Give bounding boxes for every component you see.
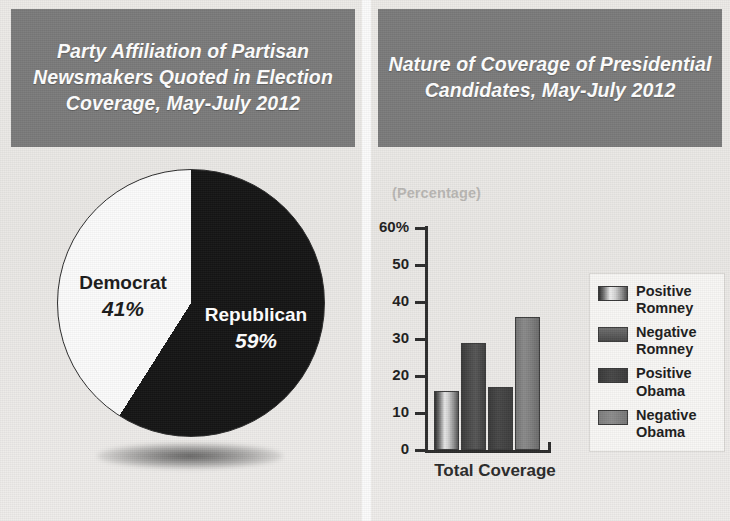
bar-positive-obama	[488, 387, 513, 450]
x-axis-label: Total Coverage	[400, 461, 590, 481]
legend-swatch-icon	[598, 368, 628, 383]
pie-slice-label-democrat: Democrat 41%	[63, 271, 183, 322]
y-tick-mark: 0	[415, 449, 426, 452]
x-axis-end-cap	[548, 442, 551, 453]
y-tick-label: 10	[392, 403, 409, 420]
pie-slice-name-republican: Republican	[186, 303, 326, 326]
bar-chart-legend: PositiveRomneyNegativeRomneyPositiveObam…	[589, 273, 725, 452]
legend-label-line: Positive	[636, 283, 693, 300]
legend-item-positive-obama: PositiveObama	[598, 365, 718, 399]
legend-label-line: Negative	[636, 407, 696, 424]
y-tick-label: 50	[392, 255, 409, 272]
y-tick-mark: 20	[415, 375, 426, 378]
y-tick-label: 30	[392, 329, 409, 346]
pie-slice-value-democrat: 41%	[63, 296, 183, 322]
pie-slice-name-democrat: Democrat	[63, 271, 183, 294]
legend-swatch-icon	[598, 327, 628, 342]
left-chart-title: Party Affiliation of Partisan Newsmakers…	[11, 39, 355, 116]
legend-label-line: Positive	[636, 365, 692, 382]
legend-swatch-icon	[598, 286, 628, 301]
y-tick-label: 0	[401, 440, 409, 457]
percentage-unit-label: (Percentage)	[392, 185, 481, 201]
legend-item-negative-obama: NegativeObama	[598, 407, 718, 441]
right-chart-title-band: Nature of Coverage of Presidential Candi…	[378, 9, 722, 147]
pie-drop-shadow	[97, 443, 283, 469]
legend-item-positive-romney: PositiveRomney	[598, 283, 718, 317]
y-tick-label: 60%	[379, 218, 409, 235]
infographic-page: Party Affiliation of Partisan Newsmakers…	[0, 0, 730, 521]
y-tick-mark: 10	[415, 412, 426, 415]
pie-slice-value-republican: 59%	[186, 328, 326, 354]
bar-plot-area: 0102030405060%	[428, 228, 548, 450]
legend-label: PositiveObama	[636, 365, 692, 399]
left-chart-title-band: Party Affiliation of Partisan Newsmakers…	[11, 9, 355, 147]
legend-label: NegativeObama	[636, 407, 696, 441]
y-tick-mark: 30	[415, 338, 426, 341]
y-tick-label: 40	[392, 292, 409, 309]
y-tick-mark: 50	[415, 264, 426, 267]
pie-slice-label-republican: Republican 59%	[186, 303, 326, 354]
bar-chart: (Percentage) 0102030405060% Total Covera…	[370, 155, 730, 521]
y-tick-mark: 40	[415, 301, 426, 304]
legend-label-line: Romney	[636, 341, 696, 358]
y-tick-mark: 60%	[415, 227, 426, 230]
y-tick-label: 20	[392, 366, 409, 383]
legend-label-line: Obama	[636, 424, 696, 441]
right-chart-title: Nature of Coverage of Presidential Candi…	[378, 52, 722, 103]
legend-label-line: Negative	[636, 324, 696, 341]
pie-chart: Democrat 41% Republican 59%	[0, 155, 366, 521]
legend-label-line: Romney	[636, 300, 693, 317]
bar-negative-romney	[461, 343, 486, 450]
legend-label: PositiveRomney	[636, 283, 693, 317]
legend-item-negative-romney: NegativeRomney	[598, 324, 718, 358]
legend-label: NegativeRomney	[636, 324, 696, 358]
bar-positive-romney	[434, 391, 459, 450]
x-axis-line	[425, 450, 551, 453]
legend-swatch-icon	[598, 410, 628, 425]
legend-label-line: Obama	[636, 383, 692, 400]
bar-negative-obama	[515, 317, 540, 450]
